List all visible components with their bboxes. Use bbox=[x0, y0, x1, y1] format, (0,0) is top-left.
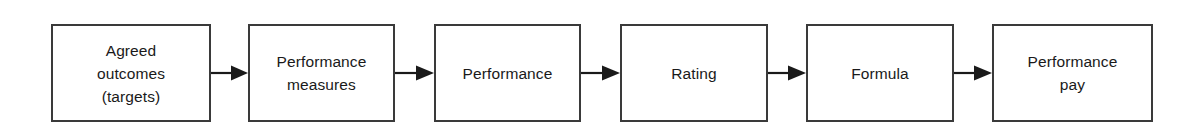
flow-arrow-2 bbox=[395, 63, 434, 83]
flow-arrow-1 bbox=[211, 63, 248, 83]
flow-node-performance-measures[interactable]: Performance measures bbox=[248, 24, 395, 122]
flow-node-label: Rating bbox=[667, 62, 720, 85]
flow-node-label: Performance measures bbox=[273, 50, 371, 96]
flow-node-label: Performance bbox=[459, 62, 557, 85]
flow-node-formula[interactable]: Formula bbox=[806, 24, 954, 122]
process-flow-diagram: Agreed outcomes (targets) Performance me… bbox=[0, 0, 1203, 133]
flow-node-performance-pay[interactable]: Performance pay bbox=[992, 24, 1153, 122]
flow-node-label: Formula bbox=[847, 62, 913, 85]
flow-node-performance[interactable]: Performance bbox=[434, 24, 581, 122]
flow-node-label: Agreed outcomes (targets) bbox=[93, 39, 169, 108]
flow-node-label: Performance pay bbox=[1024, 50, 1122, 96]
flow-node-rating[interactable]: Rating bbox=[620, 24, 768, 122]
flow-arrow-4 bbox=[768, 63, 806, 83]
flow-arrow-5 bbox=[954, 63, 992, 83]
flow-arrow-3 bbox=[581, 63, 620, 83]
flow-node-agreed-outcomes[interactable]: Agreed outcomes (targets) bbox=[51, 24, 211, 122]
